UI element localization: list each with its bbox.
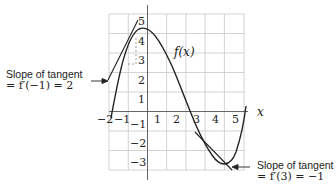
svg-text:−3: −3 — [130, 156, 146, 169]
axes — [109, 5, 248, 180]
x-tick-labels: −2 −1 1 2 3 4 5 — [97, 113, 239, 126]
tangent-line-at-3 — [195, 132, 232, 170]
svg-text:−2: −2 — [97, 113, 113, 126]
tangent-line-at-neg1 — [108, 20, 138, 80]
function-label: f(x) — [173, 45, 195, 59]
arrow-right-annotation — [232, 165, 250, 170]
arrow-left-annotation — [91, 79, 108, 84]
svg-text:1: 1 — [154, 113, 161, 126]
annotation-right: Slope of tangent = f′(3) = −1 — [257, 159, 333, 183]
svg-text:4: 4 — [138, 35, 145, 48]
svg-text:2: 2 — [138, 74, 145, 87]
svg-text:5: 5 — [138, 15, 145, 28]
svg-text:1: 1 — [138, 93, 145, 106]
svg-text:2: 2 — [173, 113, 180, 126]
annotation-right-line2: = f′(3) = −1 — [257, 171, 333, 183]
svg-text:−1: −1 — [114, 113, 130, 126]
svg-text:−1: −1 — [130, 118, 146, 131]
annotation-left: Slope of tangent = f′(−1) = 2 — [6, 68, 82, 92]
svg-text:3: 3 — [138, 54, 145, 67]
x-axis-label: x — [257, 105, 264, 119]
svg-text:−2: −2 — [130, 137, 146, 150]
annotation-left-line2: = f′(−1) = 2 — [6, 80, 82, 92]
svg-text:5: 5 — [232, 113, 239, 126]
svg-text:4: 4 — [212, 113, 219, 126]
